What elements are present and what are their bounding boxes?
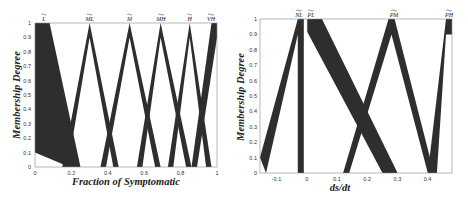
bands-right (260, 19, 452, 173)
y-tick: 0.9 (249, 31, 257, 37)
y-tick: 0.7 (249, 62, 257, 68)
x-axis-label-right: ds/dt (330, 182, 352, 193)
y-tick: 0.9 (23, 34, 31, 40)
x-tick: 0 (305, 176, 308, 182)
set-label-h: H (187, 16, 193, 22)
y-axis-label-left: Membership Degree (11, 51, 22, 140)
set-label-l: L (41, 16, 46, 22)
y-tick: 0.2 (249, 139, 257, 145)
set-label-ml: ML (84, 16, 94, 22)
y-tick: 0.4 (23, 106, 31, 112)
y-tick: 1 (254, 16, 257, 22)
y-tick: 0.4 (249, 108, 257, 114)
y-axis-left: 0 0.1 0.2 0.3 0.4 0.5 0.6 0.7 0.8 0.9 1 (23, 20, 31, 170)
y-tick: 0.8 (249, 47, 257, 53)
x-axis-label-left: Fraction of Symptomatic (71, 176, 180, 187)
set-labels-right: NL PL PM PH (294, 10, 453, 18)
y-tick: 0 (254, 170, 257, 176)
bands-left (35, 23, 217, 167)
y-tick: 1 (28, 20, 31, 26)
y-tick: 0.5 (249, 93, 257, 99)
y-tick: 0.7 (23, 63, 31, 69)
y-axis-right: 0 0.1 0.2 0.3 0.4 0.5 0.6 0.7 0.8 0.9 1 (249, 16, 257, 176)
fou-band-nl (260, 19, 304, 173)
x-tick: -0.1 (272, 176, 281, 182)
figure: 0 0.1 0.2 0.3 0.4 0.5 0.6 0.7 0.8 0.9 1 … (0, 0, 468, 198)
y-axis-label-right: Membership Degree (235, 53, 246, 142)
x-tick: 1 (215, 170, 218, 176)
x-tick: 0.4 (424, 176, 432, 182)
x-tick: 0.3 (394, 176, 402, 182)
x-tick: 0 (33, 170, 36, 176)
set-label-pm: PM (389, 12, 400, 18)
set-labels-left: L ML M MH H VH (41, 14, 215, 22)
x-axis-right: -0.1 0 0.1 0.2 0.3 0.4 (272, 176, 432, 182)
y-tick: 0.6 (23, 78, 31, 84)
y-tick: 0.2 (23, 135, 31, 141)
y-tick: 0 (28, 164, 31, 170)
y-tick: 0.3 (23, 121, 31, 127)
y-tick: 0.1 (249, 155, 257, 161)
fou-band-ph (428, 19, 452, 173)
fou-band-ml (62, 23, 118, 167)
set-label-vh: VH (207, 16, 216, 22)
x-tick: 0.2 (363, 176, 371, 182)
plot-ds-dt: 0 0.1 0.2 0.3 0.4 0.5 0.6 0.7 0.8 0.9 1 … (235, 10, 454, 193)
set-label-m: M (126, 16, 133, 22)
y-tick: 0.6 (249, 78, 257, 84)
fou-band-l (35, 23, 81, 167)
set-label-ph: PH (444, 12, 454, 18)
set-label-mh: MH (155, 16, 166, 22)
set-label-nl: NL (294, 12, 303, 18)
tilde-marks-left (42, 14, 215, 15)
set-label-pl: PL (306, 12, 315, 18)
tilde-marks-right (296, 10, 452, 11)
y-tick: 0.8 (23, 49, 31, 55)
y-tick: 0.5 (23, 92, 31, 98)
plot-fraction-symptomatic: 0 0.1 0.2 0.3 0.4 0.5 0.6 0.7 0.8 0.9 1 … (11, 14, 219, 187)
y-tick: 0.3 (249, 124, 257, 130)
y-tick: 0.1 (23, 150, 31, 156)
